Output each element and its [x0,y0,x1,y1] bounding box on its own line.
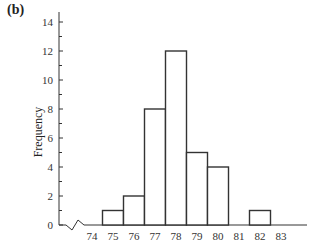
histogram-bar-75 [103,211,124,226]
y-tick-label: 6 [48,132,54,144]
y-tick-label: 4 [48,161,54,173]
histogram-bar-77 [145,109,166,225]
x-tick-label: 80 [213,230,225,242]
x-tick-label: 79 [192,230,204,242]
histogram-chart: 02468101214 74757677787980818283 Frequen… [0,0,310,245]
bars [103,51,271,225]
y-tick-label: 0 [48,219,54,231]
y-tick-label: 12 [42,45,53,57]
y-tick-label: 8 [48,103,54,115]
x-tick-label: 77 [150,230,162,242]
histogram-bar-79 [187,153,208,226]
histogram-bar-78 [166,51,187,225]
x-tick-label: 76 [129,230,141,242]
y-tick-label: 2 [48,190,54,202]
y-axis: 02468101214 [42,12,63,231]
x-tick-label: 83 [276,230,288,242]
x-tick-label: 78 [171,230,183,242]
x-tick-label: 82 [255,230,266,242]
y-tick-label: 14 [42,16,54,28]
histogram-bar-82 [250,211,271,226]
x-tick-label: 81 [234,230,245,242]
y-axis-title: Frequency [31,107,45,158]
histogram-bar-76 [124,196,145,225]
histogram-bar-80 [208,167,229,225]
y-tick-label: 10 [42,74,54,86]
x-tick-label: 74 [87,230,99,242]
x-tick-label: 75 [108,230,120,242]
